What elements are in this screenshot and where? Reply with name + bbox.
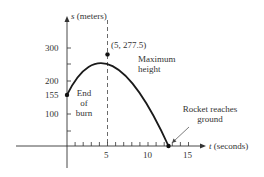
x-axis-arrow-icon <box>200 144 206 149</box>
y-axis-label: s (meters) <box>71 11 107 21</box>
end-of-burn-point <box>65 93 69 97</box>
maximum-height-line1: Maximum <box>138 54 176 64</box>
x-tick-10: 10 <box>143 150 152 160</box>
end-of-burn-line3: burn <box>74 108 94 118</box>
end-of-burn-line1: End <box>74 88 94 98</box>
y-tick-155: 155 <box>45 90 59 100</box>
maximum-height-label: Maximum height <box>138 54 176 74</box>
y-axis-arrow-icon <box>65 16 70 22</box>
maximum-height-line2: height <box>138 64 176 74</box>
peak-point <box>105 52 109 56</box>
x-tick-15: 15 <box>183 150 192 160</box>
y-axis-var: s <box>71 11 75 21</box>
ground-point <box>166 144 170 148</box>
rocket-ground-line1: Rocket reaches <box>178 104 242 114</box>
x-axis-var: t <box>209 141 212 151</box>
rocket-ground-label: Rocket reaches ground <box>178 104 242 124</box>
y-tick-300: 300 <box>45 43 59 53</box>
y-axis-unit: (meters) <box>77 11 107 21</box>
y-tick-200: 200 <box>45 76 59 86</box>
x-axis-label: t (seconds) <box>209 141 248 151</box>
x-tick-5: 5 <box>104 150 109 160</box>
rocket-ground-line2: ground <box>178 114 242 124</box>
ground-pointer-line <box>174 127 189 141</box>
x-ticks <box>75 142 188 146</box>
peak-coordinate-label: (5, 277.5) <box>111 40 146 50</box>
end-of-burn-label: End of burn <box>74 88 94 118</box>
end-of-burn-line2: of <box>74 98 94 108</box>
x-axis-unit: (seconds) <box>214 141 249 151</box>
y-tick-100: 100 <box>45 109 59 119</box>
